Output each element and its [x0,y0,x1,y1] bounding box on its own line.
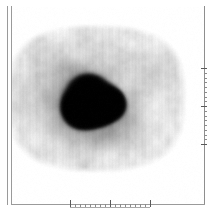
axis-tick-horizontal [130,204,131,207]
axis-tick-horizontal [135,204,136,207]
axis-tick-horizontal [80,204,81,207]
axis-tick-vertical [204,87,207,88]
axis-tick-vertical [204,82,207,83]
axis-tick-horizontal [125,204,126,207]
viewer-title: Tomographic Slice Viewer [0,0,1,1]
axis-tick-vertical [204,139,207,140]
axis-tick-vertical [204,116,207,117]
axis-tick-horizontal [100,204,101,207]
axis-tick-vertical [204,120,207,121]
axis-tick-horizontal [120,204,121,207]
tomographic-slice-viewer: Tomographic Slice Viewer Transaxial emis… [0,0,214,215]
slice-image[interactable] [12,7,204,203]
axis-tick-horizontal [90,204,91,207]
axis-tick-vertical [204,135,207,136]
axis-tick-horizontal [70,200,71,207]
scan-image-area[interactable] [12,7,204,203]
axis-tick-horizontal [140,204,141,207]
axis-tick-vertical [204,130,207,131]
axis-tick-horizontal [85,204,86,207]
modality-label: Transaxial emission tomography slice [0,0,1,1]
axis-tick-horizontal [150,200,151,207]
axis-tick-vertical [204,97,207,98]
frame-border-left-outer [7,6,8,205]
axis-tick-vertical [204,78,207,79]
axis-tick-horizontal [75,204,76,207]
axis-tick-vertical [204,92,207,93]
axis-tick-vertical [201,68,207,69]
axis-tick-vertical [204,125,207,126]
axis-tick-horizontal [105,204,106,207]
axis-tick-vertical [204,73,207,74]
axis-tick-vertical [201,144,207,145]
horizontal-scale-axis [70,200,150,208]
frame-border-left-inner [11,6,12,205]
axis-tick-horizontal [145,204,146,207]
axis-tick-vertical [201,106,207,107]
vertical-scale-axis [201,68,207,144]
axis-tick-vertical [204,101,207,102]
axis-tick-vertical [204,111,207,112]
axis-tick-horizontal [115,204,116,207]
axis-baseline-horizontal [70,207,150,208]
axis-tick-horizontal [110,200,111,207]
axis-tick-horizontal [95,204,96,207]
